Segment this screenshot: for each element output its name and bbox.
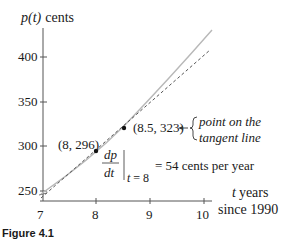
x-tick-8: 8 — [92, 207, 99, 222]
chart-canvas: 400 350 300 250 7 8 9 10 p(t)cents tyear… — [0, 0, 283, 240]
derivative-annotation: dp dt t = 8 = 54 cents per year — [102, 147, 255, 185]
y-axis-label-var: p(t) — [20, 10, 42, 26]
derivative-eval: t = 8 — [127, 171, 149, 185]
y-axis-label-unit: cents — [45, 10, 74, 25]
point-8_5-323 — [122, 126, 126, 130]
x-tick-9: 9 — [146, 207, 153, 222]
point-label-8-296: (8, 296) — [58, 137, 99, 152]
y-tick-300: 300 — [18, 138, 38, 153]
x-axis-label-line2: since 1990 — [218, 202, 278, 217]
brace-icon — [190, 117, 197, 140]
y-tick-400: 400 — [18, 49, 38, 64]
x-tick-labels: 7 8 9 10 — [37, 207, 209, 222]
tangent-line — [41, 50, 210, 198]
y-tick-labels: 400 350 300 250 — [18, 49, 38, 198]
x-axis-label-line1: tyears — [232, 185, 268, 200]
x-tick-10: 10 — [196, 207, 209, 222]
tangent-note-line2: tangent line — [199, 130, 261, 145]
derivative-numerator: dp — [104, 147, 118, 162]
x-tick-7: 7 — [37, 207, 44, 222]
derivative-denominator: dt — [104, 165, 115, 180]
y-tick-250: 250 — [18, 183, 38, 198]
derivative-value: = 54 cents per year — [155, 158, 255, 173]
figure-caption: Figure 4.1 — [2, 227, 54, 239]
point-label-8_5-323: (8.5, 323) — [133, 120, 184, 135]
y-axis-label: p(t)cents — [20, 10, 74, 26]
y-tick-350: 350 — [18, 94, 38, 109]
tangent-note-line1: point on the — [198, 114, 261, 129]
